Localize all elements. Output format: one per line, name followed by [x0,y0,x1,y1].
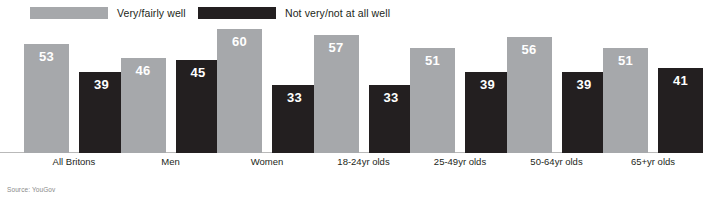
bar-value-label: 51 [425,54,440,153]
bar-group-bars: 5141 [603,25,703,153]
bar: 57 [314,35,359,153]
bar-value-label: 33 [384,91,399,153]
bar-value-label: 56 [522,43,537,153]
x-axis-tick-label: Men [121,156,221,167]
bar: 45 [176,60,221,153]
bar-group-bars: 5339 [24,25,124,153]
bar-group: 514165+yr olds [603,25,703,153]
bar-value-label: 46 [136,64,151,153]
bar-group: 573318-24yr olds [314,25,414,153]
x-axis-tick-label: 18-24yr olds [314,156,414,167]
bar: 39 [562,72,607,153]
x-axis-tick-label: All Britons [24,156,124,167]
bar-group: 6033Women [217,25,317,153]
legend-swatch-not-very-not-at-all-well [198,7,276,19]
bar-value-label: 39 [577,78,592,153]
bar-value-label: 51 [618,54,633,153]
bar-group-bars: 4645 [121,25,221,153]
bar-value-label: 39 [94,78,109,153]
bar-value-label: 33 [287,91,302,153]
bar: 41 [658,68,703,153]
chart-legend: Very/fairly well Not very/not at all wel… [0,7,703,25]
bar-group-bars: 5139 [410,25,510,153]
bar-group: 563950-64yr olds [507,25,607,153]
bar-value-label: 60 [232,35,247,153]
bar: 51 [603,48,648,153]
bar-group-bars: 6033 [217,25,317,153]
bar-value-label: 45 [191,66,206,153]
bar: 33 [272,85,317,153]
bar-group-bars: 5733 [314,25,414,153]
bar: 39 [465,72,510,153]
bar-value-label: 57 [329,41,344,153]
plot-area: 5339All Britons4645Men6033Women573318-24… [0,25,703,173]
legend-label-not-very-not-at-all-well: Not very/not at all well [285,7,390,19]
bar-value-label: 39 [480,78,495,153]
x-axis-tick-label: 50-64yr olds [507,156,607,167]
legend-item-very-fairly-well: Very/fairly well [30,7,186,19]
bar: 51 [410,48,455,153]
bar: 39 [79,72,124,153]
bar: 33 [369,85,414,153]
legend-swatch-very-fairly-well [30,7,108,19]
x-axis-tick-label: 25-49yr olds [410,156,510,167]
bar-group-bars: 5639 [507,25,607,153]
bar-group: 4645Men [121,25,221,153]
bar: 46 [121,58,166,153]
x-axis-tick-label: Women [217,156,317,167]
bar: 60 [217,29,262,153]
bar-group: 513925-49yr olds [410,25,510,153]
x-axis-tick-label: 65+yr olds [603,156,703,167]
chart-container: Very/fairly well Not very/not at all wel… [0,0,703,197]
bar-value-label: 41 [673,74,688,153]
legend-item-not-very-not-at-all-well: Not very/not at all well [198,7,390,19]
bar-value-label: 53 [39,50,54,153]
bar-group: 5339All Britons [24,25,124,153]
bar: 53 [24,44,69,153]
legend-label-very-fairly-well: Very/fairly well [117,7,186,19]
bar: 56 [507,37,552,153]
source-note: Source: YouGov [7,186,55,193]
